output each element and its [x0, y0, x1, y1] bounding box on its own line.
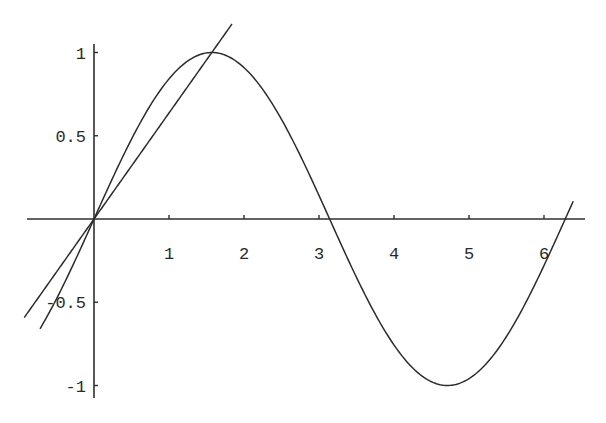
x-ticks: 123456: [164, 215, 549, 264]
x-tick-label: 5: [464, 245, 474, 264]
y-tick-label: 1: [76, 45, 86, 64]
x-tick-label: 1: [164, 245, 174, 264]
chord-line: [24, 24, 232, 318]
y-ticks: 10.5-0.5-1: [45, 45, 98, 397]
y-tick-label: -0.5: [45, 294, 86, 313]
y-tick-label: 0.5: [55, 128, 86, 147]
series-group: [24, 24, 573, 386]
x-tick-label: 6: [539, 245, 549, 264]
x-tick-label: 4: [389, 245, 399, 264]
chart-plot-area: 123456 10.5-0.5-1: [0, 0, 606, 423]
x-tick-label: 3: [314, 245, 324, 264]
y-tick-label: -1: [66, 378, 86, 397]
x-tick-label: 2: [239, 245, 249, 264]
